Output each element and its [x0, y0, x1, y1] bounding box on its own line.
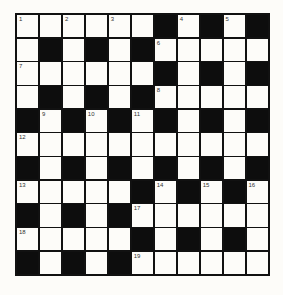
crossword-cell[interactable] — [40, 133, 61, 155]
crossword-cell[interactable] — [86, 204, 107, 226]
clue-number: 16 — [249, 182, 256, 189]
crossword-cell[interactable] — [224, 110, 245, 132]
crossword-cell[interactable]: 7 — [17, 62, 38, 84]
crossword-cell[interactable] — [63, 181, 84, 203]
crossword-cell[interactable] — [109, 181, 130, 203]
crossword-cell[interactable] — [247, 133, 268, 155]
crossword-cell[interactable] — [40, 252, 61, 274]
crossword-cell[interactable] — [40, 228, 61, 250]
crossword-cell[interactable]: 5 — [224, 15, 245, 37]
crossword-cell[interactable] — [63, 62, 84, 84]
crossword-cell[interactable]: 6 — [155, 39, 176, 61]
crossword-cell[interactable] — [40, 62, 61, 84]
crossword-cell[interactable] — [132, 157, 153, 179]
crossword-cell[interactable] — [178, 110, 199, 132]
crossword-cell[interactable] — [201, 228, 222, 250]
crossword-cell[interactable] — [86, 157, 107, 179]
black-square — [132, 39, 153, 61]
crossword-cell[interactable] — [109, 39, 130, 61]
crossword-cell[interactable] — [109, 228, 130, 250]
crossword-cell[interactable] — [40, 181, 61, 203]
crossword-cell[interactable]: 19 — [132, 252, 153, 274]
crossword-cell[interactable] — [40, 204, 61, 226]
crossword-cell[interactable] — [247, 228, 268, 250]
crossword-cell[interactable] — [86, 62, 107, 84]
crossword-cell[interactable] — [132, 15, 153, 37]
black-square — [155, 15, 176, 37]
crossword-cell[interactable] — [247, 86, 268, 108]
crossword-cell[interactable]: 10 — [86, 110, 107, 132]
crossword-cell[interactable]: 12 — [17, 133, 38, 155]
crossword-cell[interactable] — [109, 86, 130, 108]
crossword-cell[interactable] — [201, 39, 222, 61]
crossword-cell[interactable] — [132, 62, 153, 84]
crossword-cell[interactable] — [86, 181, 107, 203]
crossword-cell[interactable] — [201, 86, 222, 108]
crossword-cell[interactable]: 3 — [109, 15, 130, 37]
crossword-cell[interactable]: 17 — [132, 204, 153, 226]
crossword-cell[interactable] — [247, 39, 268, 61]
crossword-cell[interactable] — [109, 133, 130, 155]
clue-number: 15 — [203, 182, 210, 189]
crossword-cell[interactable] — [155, 133, 176, 155]
crossword-cell[interactable] — [109, 62, 130, 84]
crossword-cell[interactable]: 9 — [40, 110, 61, 132]
crossword-cell[interactable] — [178, 204, 199, 226]
crossword-cell[interactable] — [201, 252, 222, 274]
crossword-cell[interactable] — [17, 39, 38, 61]
crossword-cell[interactable] — [132, 133, 153, 155]
crossword-cell[interactable]: 13 — [17, 181, 38, 203]
crossword-cell[interactable]: 2 — [63, 15, 84, 37]
crossword-cell[interactable] — [224, 252, 245, 274]
crossword-cell[interactable]: 16 — [247, 181, 268, 203]
crossword-cell[interactable] — [178, 133, 199, 155]
crossword-cell[interactable] — [155, 228, 176, 250]
black-square — [132, 181, 153, 203]
crossword-cell[interactable]: 1 — [17, 15, 38, 37]
crossword-cell[interactable] — [63, 228, 84, 250]
crossword-cell[interactable] — [86, 252, 107, 274]
black-square — [109, 110, 130, 132]
crossword-cell[interactable] — [178, 62, 199, 84]
crossword-cell[interactable] — [224, 39, 245, 61]
crossword-cell[interactable] — [63, 86, 84, 108]
crossword-cell[interactable]: 8 — [155, 86, 176, 108]
crossword-cell[interactable] — [201, 133, 222, 155]
black-square — [40, 86, 61, 108]
crossword-cell[interactable] — [178, 157, 199, 179]
crossword-grid: 12345678910111213141516171819 — [15, 13, 270, 276]
crossword-cell[interactable] — [178, 39, 199, 61]
black-square — [247, 15, 268, 37]
crossword-cell[interactable] — [63, 39, 84, 61]
crossword-cell[interactable]: 4 — [178, 15, 199, 37]
clue-number: 14 — [157, 182, 164, 189]
black-square — [247, 62, 268, 84]
crossword-cell[interactable]: 15 — [201, 181, 222, 203]
crossword-cell[interactable] — [247, 252, 268, 274]
crossword-cell[interactable] — [247, 204, 268, 226]
black-square — [109, 204, 130, 226]
crossword-cell[interactable]: 14 — [155, 181, 176, 203]
crossword-cell[interactable]: 18 — [17, 228, 38, 250]
crossword-cell[interactable] — [63, 133, 84, 155]
crossword-cell[interactable] — [224, 157, 245, 179]
crossword-cell[interactable] — [40, 15, 61, 37]
crossword-cell[interactable] — [155, 204, 176, 226]
black-square — [155, 110, 176, 132]
crossword-cell[interactable] — [17, 86, 38, 108]
crossword-cell[interactable] — [178, 252, 199, 274]
crossword-cell[interactable]: 11 — [132, 110, 153, 132]
black-square — [63, 204, 84, 226]
crossword-cell[interactable] — [155, 252, 176, 274]
clue-number: 8 — [157, 87, 160, 94]
crossword-cell[interactable] — [224, 204, 245, 226]
crossword-cell[interactable] — [178, 86, 199, 108]
crossword-cell[interactable] — [86, 15, 107, 37]
crossword-cell[interactable] — [201, 204, 222, 226]
crossword-cell[interactable] — [224, 133, 245, 155]
crossword-cell[interactable] — [224, 62, 245, 84]
crossword-cell[interactable] — [40, 157, 61, 179]
crossword-cell[interactable] — [86, 228, 107, 250]
crossword-cell[interactable] — [224, 86, 245, 108]
crossword-cell[interactable] — [86, 133, 107, 155]
